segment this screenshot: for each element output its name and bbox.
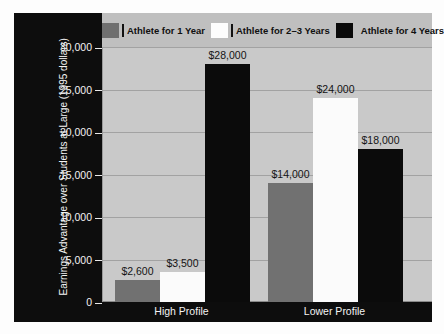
bar: $24,000: [313, 98, 358, 302]
bar-value-label: $24,000: [317, 83, 355, 95]
x-axis-category-band: High ProfileLower Profile: [102, 302, 432, 322]
bar: $3,500: [160, 272, 205, 302]
y-axis-tick-mark: [95, 218, 102, 219]
y-axis-tick-label: 20,000: [60, 126, 102, 138]
x-axis-category-label: Lower Profile: [267, 305, 402, 317]
legend-item-athlete-4-years: Athlete for 4 Years: [336, 22, 444, 38]
legend-label-athlete-4-years: Athlete for 4 Years: [356, 24, 444, 37]
y-axis-tick-mark: [95, 48, 102, 49]
y-axis-tick-mark: [95, 260, 102, 261]
y-axis-tick-label: 5,000: [66, 254, 102, 266]
x-axis-category-label: High Profile: [114, 305, 249, 317]
y-axis-tick-value: 5,000: [66, 254, 92, 266]
bar: $14,000: [268, 183, 313, 302]
legend-item-athlete-1-year: Athlete for 1 Year: [102, 22, 205, 38]
y-axis-tick-label: 30,000: [60, 41, 102, 53]
y-axis-tick-label: 0: [86, 296, 102, 308]
y-axis: Earnings Advantage over Students at Larg…: [28, 47, 102, 303]
y-axis-tick-mark: [95, 303, 102, 304]
y-axis-tick-value: 10,000: [60, 211, 92, 223]
legend-label-athlete-2-3-years: Athlete for 2–3 Years: [231, 24, 330, 37]
y-axis-tick-label: 10,000: [60, 211, 102, 223]
y-axis-tick-value: 15,000: [60, 169, 92, 181]
bar: $28,000: [205, 64, 250, 302]
bar: $2,600: [115, 280, 160, 302]
legend-item-athlete-2-3-years: Athlete for 2–3 Years: [211, 22, 330, 38]
bar-value-label: $18,000: [362, 134, 400, 146]
y-axis-tick-mark: [95, 90, 102, 91]
bar-group: $2,600$3,500$28,000: [115, 47, 250, 302]
y-axis-tick-value: 25,000: [60, 84, 92, 96]
legend-swatch-gray-icon: [102, 23, 119, 38]
bar-value-label: $2,600: [121, 265, 153, 277]
y-axis-tick-value: 20,000: [60, 126, 92, 138]
bar-series-container: $2,600$3,500$28,000$14,000$24,000$18,000: [103, 47, 432, 302]
bar-value-label: $3,500: [166, 257, 198, 269]
chart-legend: Athlete for 1 Year Athlete for 2–3 Years…: [102, 13, 432, 47]
legend-label-athlete-1-year: Athlete for 1 Year: [122, 24, 205, 37]
legend-swatch-black-icon: [336, 23, 353, 38]
y-axis-tick-value: 0: [86, 296, 92, 308]
bar-group: $14,000$24,000$18,000: [268, 47, 403, 302]
y-axis-tick-mark: [95, 175, 102, 176]
y-axis-tick-mark: [95, 133, 102, 134]
y-axis-tick-value: 30,000: [60, 41, 92, 53]
y-axis-tick-label: 15,000: [60, 169, 102, 181]
bar-value-label: $14,000: [272, 168, 310, 180]
y-axis-tick-label: 25,000: [60, 84, 102, 96]
bar-value-label: $28,000: [209, 49, 247, 61]
plot-area: $2,600$3,500$28,000$14,000$24,000$18,000: [102, 47, 432, 302]
bar: $18,000: [358, 149, 403, 302]
legend-swatch-white-icon: [211, 23, 228, 38]
chart-frame: Athlete for 1 Year Athlete for 2–3 Years…: [14, 13, 418, 322]
